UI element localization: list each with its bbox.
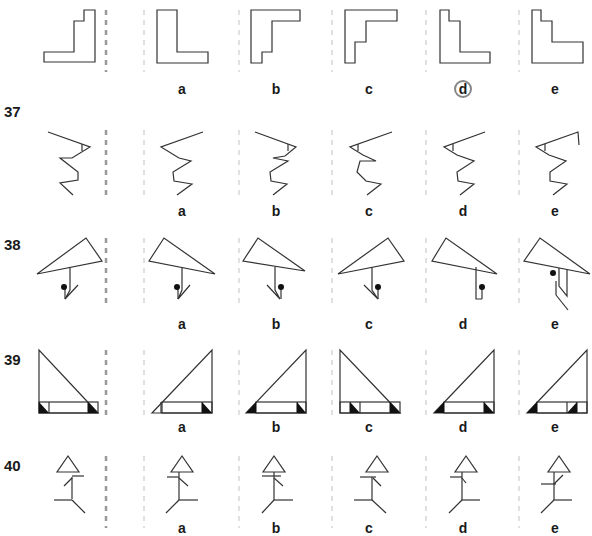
dividers-row-37 [106, 130, 519, 200]
question-37-option-a[interactable] [161, 132, 203, 195]
question-37-option-e[interactable] [536, 132, 579, 195]
question-36-stem-figure [44, 10, 95, 62]
question-39-option-b[interactable] [246, 350, 306, 413]
question-39-option-a[interactable] [152, 350, 212, 413]
question-40-option-d[interactable] [449, 456, 480, 513]
question-40-stem-figure [54, 456, 85, 513]
question-38-option-e[interactable] [524, 238, 590, 310]
question-36-option-a[interactable] [157, 10, 208, 63]
question-38-option-b[interactable] [243, 238, 305, 299]
dividers-row-39 [106, 350, 519, 420]
dividers-row-40 [106, 456, 519, 528]
question-38-option-c[interactable] [338, 238, 404, 299]
question-40-option-c[interactable] [354, 456, 388, 513]
question-36-option-c[interactable] [345, 10, 397, 63]
question-40-option-a[interactable] [166, 456, 198, 513]
question-36-option-e[interactable] [532, 10, 583, 63]
question-37-option-d[interactable] [444, 132, 485, 195]
question-39-stem-figure [39, 350, 98, 413]
question-36-option-d[interactable] [440, 10, 490, 63]
question-37-option-c[interactable] [350, 132, 392, 195]
question-39-option-d[interactable] [434, 350, 494, 413]
question-37-stem-figure [48, 132, 90, 195]
question-37-option-b[interactable] [255, 132, 296, 195]
question-39-option-e[interactable] [527, 350, 587, 413]
question-39-option-c[interactable] [340, 350, 400, 413]
question-38-stem-figure [37, 238, 102, 299]
question-38-option-a[interactable] [149, 238, 215, 299]
dividers-row-38 [106, 238, 519, 308]
question-36-option-b[interactable] [251, 10, 300, 63]
question-40-option-e[interactable] [541, 456, 572, 513]
question-38-option-d[interactable] [432, 238, 497, 299]
question-40-option-b[interactable] [262, 456, 293, 513]
